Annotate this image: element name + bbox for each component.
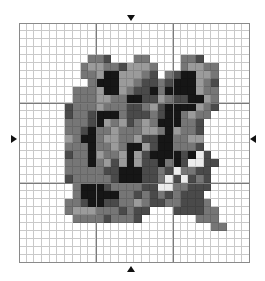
grid-cell[interactable] <box>27 183 35 191</box>
grid-cell[interactable] <box>142 135 150 143</box>
grid-cell[interactable] <box>88 207 96 215</box>
grid-cell[interactable] <box>227 183 235 191</box>
grid-cell[interactable] <box>204 191 212 199</box>
grid-cell[interactable] <box>34 175 42 183</box>
grid-cell[interactable] <box>181 215 189 223</box>
grid-cell[interactable] <box>227 167 235 175</box>
grid-cell[interactable] <box>235 231 243 239</box>
grid-cell[interactable] <box>165 119 173 127</box>
grid-cell[interactable] <box>73 175 81 183</box>
grid-cell[interactable] <box>127 175 135 183</box>
grid-cell[interactable] <box>242 175 250 183</box>
grid-cell[interactable] <box>88 79 96 87</box>
grid-cell[interactable] <box>57 231 65 239</box>
grid-cell[interactable] <box>204 231 212 239</box>
grid-cell[interactable] <box>119 175 127 183</box>
grid-cell[interactable] <box>196 159 204 167</box>
grid-cell[interactable] <box>219 215 227 223</box>
grid-cell[interactable] <box>181 63 189 71</box>
grid-cell[interactable] <box>165 223 173 231</box>
grid-cell[interactable] <box>242 47 250 55</box>
grid-cell[interactable] <box>42 143 50 151</box>
grid-cell[interactable] <box>173 151 181 159</box>
grid-cell[interactable] <box>42 191 50 199</box>
grid-cell[interactable] <box>165 103 173 111</box>
grid-cell[interactable] <box>211 223 219 231</box>
grid-cell[interactable] <box>42 175 50 183</box>
grid-cell[interactable] <box>227 119 235 127</box>
grid-cell[interactable] <box>196 23 204 31</box>
grid-cell[interactable] <box>50 71 58 79</box>
grid-cell[interactable] <box>173 167 181 175</box>
grid-cell[interactable] <box>81 207 89 215</box>
grid-cell[interactable] <box>188 167 196 175</box>
grid-cell[interactable] <box>188 135 196 143</box>
grid-cell[interactable] <box>96 119 104 127</box>
grid-cell[interactable] <box>50 199 58 207</box>
grid-cell[interactable] <box>204 151 212 159</box>
grid-cell[interactable] <box>134 175 142 183</box>
grid-cell[interactable] <box>96 191 104 199</box>
grid-cell[interactable] <box>81 55 89 63</box>
grid-cell[interactable] <box>19 175 27 183</box>
grid-cell[interactable] <box>65 23 73 31</box>
grid-cell[interactable] <box>111 143 119 151</box>
grid-cell[interactable] <box>165 255 173 263</box>
grid-cell[interactable] <box>188 103 196 111</box>
grid-cell[interactable] <box>50 23 58 31</box>
grid-cell[interactable] <box>42 231 50 239</box>
grid-cell[interactable] <box>104 215 112 223</box>
grid-cell[interactable] <box>34 191 42 199</box>
grid-cell[interactable] <box>42 55 50 63</box>
grid-cell[interactable] <box>196 47 204 55</box>
grid-cell[interactable] <box>211 199 219 207</box>
grid-cell[interactable] <box>188 95 196 103</box>
grid-cell[interactable] <box>34 239 42 247</box>
grid-cell[interactable] <box>173 23 181 31</box>
grid-cell[interactable] <box>50 183 58 191</box>
grid-cell[interactable] <box>127 55 135 63</box>
grid-cell[interactable] <box>65 79 73 87</box>
grid-cell[interactable] <box>235 103 243 111</box>
grid-cell[interactable] <box>42 215 50 223</box>
grid-cell[interactable] <box>219 95 227 103</box>
grid-cell[interactable] <box>73 183 81 191</box>
grid-cell[interactable] <box>150 63 158 71</box>
grid-cell[interactable] <box>196 223 204 231</box>
grid-cell[interactable] <box>150 255 158 263</box>
grid-cell[interactable] <box>96 31 104 39</box>
grid-cell[interactable] <box>165 207 173 215</box>
grid-cell[interactable] <box>88 119 96 127</box>
grid-cell[interactable] <box>19 183 27 191</box>
grid-cell[interactable] <box>134 143 142 151</box>
grid-cell[interactable] <box>104 231 112 239</box>
grid-cell[interactable] <box>142 55 150 63</box>
grid-cell[interactable] <box>34 151 42 159</box>
grid-cell[interactable] <box>42 23 50 31</box>
grid-cell[interactable] <box>73 159 81 167</box>
grid-cell[interactable] <box>34 127 42 135</box>
grid-cell[interactable] <box>88 239 96 247</box>
grid-cell[interactable] <box>81 95 89 103</box>
grid-cell[interactable] <box>42 87 50 95</box>
grid-cell[interactable] <box>88 23 96 31</box>
grid-cell[interactable] <box>27 47 35 55</box>
grid-cell[interactable] <box>196 127 204 135</box>
grid-cell[interactable] <box>158 87 166 95</box>
grid-cell[interactable] <box>211 127 219 135</box>
grid-cell[interactable] <box>127 127 135 135</box>
grid-cell[interactable] <box>73 255 81 263</box>
pattern-grid[interactable] <box>19 23 250 263</box>
grid-cell[interactable] <box>242 119 250 127</box>
grid-cell[interactable] <box>219 39 227 47</box>
grid-cell[interactable] <box>50 95 58 103</box>
grid-cell[interactable] <box>134 79 142 87</box>
grid-cell[interactable] <box>235 223 243 231</box>
grid-cell[interactable] <box>50 79 58 87</box>
grid-cell[interactable] <box>150 111 158 119</box>
grid-cell[interactable] <box>65 119 73 127</box>
grid-cell[interactable] <box>42 135 50 143</box>
grid-cell[interactable] <box>181 143 189 151</box>
grid-cell[interactable] <box>19 143 27 151</box>
grid-cell[interactable] <box>235 239 243 247</box>
